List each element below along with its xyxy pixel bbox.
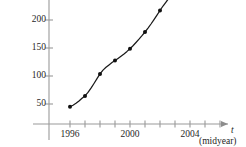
- x-axis-arrow-icon: [221, 121, 228, 127]
- data-points: [68, 9, 162, 109]
- x-tick-label-2000: 2000: [121, 130, 140, 140]
- data-point: [143, 30, 147, 34]
- data-point: [68, 105, 72, 109]
- x-axis-unit-label: (midyear): [199, 137, 236, 147]
- y-tick-label-100: 100: [32, 71, 46, 81]
- data-point: [113, 59, 117, 63]
- data-point: [128, 47, 132, 51]
- y-tick-label-150: 150: [32, 43, 46, 53]
- y-tick-label-200: 200: [32, 15, 46, 25]
- x-tick-label-2004: 2004: [181, 130, 200, 140]
- data-point: [158, 9, 162, 13]
- data-curve: [70, 46, 130, 107]
- x-tick-label-1996: 1996: [61, 130, 80, 140]
- data-point: [98, 72, 102, 76]
- x-axis-variable-label: t: [231, 126, 234, 136]
- data-curve-smooth: [70, 0, 168, 107]
- y-tick-label-50: 50: [37, 99, 47, 109]
- data-point: [83, 94, 87, 98]
- chart-figure: 250 200 150 100 50 1996 2000 2004 t (mid…: [0, 0, 246, 147]
